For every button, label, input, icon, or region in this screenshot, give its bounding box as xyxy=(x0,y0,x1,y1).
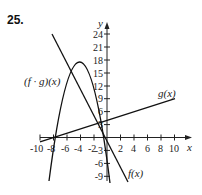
svg-text:-6: -6 xyxy=(95,158,103,169)
svg-text:18: 18 xyxy=(93,55,103,66)
svg-text:8: 8 xyxy=(158,143,163,154)
f-label: f(x) xyxy=(128,167,144,180)
svg-text:15: 15 xyxy=(93,68,103,79)
svg-text:-3: -3 xyxy=(95,145,103,156)
y-axis-label: y xyxy=(97,17,103,29)
svg-text:4: 4 xyxy=(131,143,136,154)
svg-text:-6: -6 xyxy=(61,143,69,154)
y-axis-arrow-icon xyxy=(105,22,110,29)
x-axis-arrow-icon xyxy=(185,135,192,140)
svg-text:-10: -10 xyxy=(30,143,43,154)
f-line xyxy=(52,34,128,182)
x-axis-label: x xyxy=(186,141,192,153)
svg-text:10: 10 xyxy=(169,143,179,154)
svg-text:-4: -4 xyxy=(74,143,82,154)
graph: -10 -8 -6 -4 -2 2 4 6 8 10 24 21 18 15 1… xyxy=(0,0,202,195)
svg-text:2: 2 xyxy=(118,143,123,154)
svg-text:9: 9 xyxy=(98,93,103,104)
svg-text:-9: -9 xyxy=(95,171,103,182)
svg-text:24: 24 xyxy=(93,29,103,40)
g-label: g(x) xyxy=(158,87,176,100)
svg-text:21: 21 xyxy=(93,42,103,53)
svg-text:6: 6 xyxy=(145,143,150,154)
fg-label: (f · g)(x) xyxy=(24,75,61,88)
